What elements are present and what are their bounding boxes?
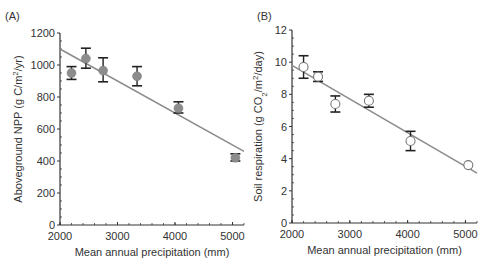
x-tick-label: 3000 (338, 228, 362, 240)
y-axis-title: Aboveground NPP (g C/m2/yr) (11, 55, 25, 202)
data-point (98, 58, 108, 82)
marker (464, 161, 473, 170)
data-point (67, 67, 77, 80)
y-tick-label: 2 (281, 185, 287, 197)
marker (299, 62, 308, 71)
data-point (132, 67, 142, 86)
x-tick-label: 5000 (453, 228, 477, 240)
chart-panel-b: (B)0246810122000300040005000Mean annual … (251, 10, 478, 256)
data-point (313, 72, 323, 82)
marker (364, 96, 373, 105)
marker (314, 72, 323, 81)
chart-panel-a: (A)0200400600800100012002000300040005000… (5, 10, 245, 258)
y-tick-label: 800 (37, 91, 55, 103)
y-tick-label: 8 (281, 88, 287, 100)
regression-line (60, 49, 244, 151)
marker (67, 69, 76, 78)
x-axis-title: Mean annual precipitation (mm) (75, 246, 230, 258)
x-tick-label: 2000 (48, 230, 72, 242)
marker (231, 153, 240, 162)
y-tick-label: 1000 (31, 59, 55, 71)
figure: (A)0200400600800100012002000300040005000… (0, 0, 495, 276)
data-point (406, 131, 416, 150)
x-tick-label: 2000 (280, 228, 304, 240)
y-tick-label: 400 (37, 155, 55, 167)
marker (99, 66, 108, 75)
marker (133, 72, 142, 81)
y-tick-label: 12 (275, 24, 287, 36)
marker (81, 54, 90, 63)
marker (406, 136, 415, 145)
x-axis-title: Mean annual precipitation (mm) (307, 244, 462, 256)
x-tick-label: 3000 (105, 230, 129, 242)
x-tick-label: 4000 (163, 230, 187, 242)
panel-label: (A) (5, 10, 20, 22)
marker (174, 104, 183, 113)
marker (331, 99, 340, 108)
y-tick-label: 4 (281, 153, 287, 165)
data-point (230, 153, 240, 162)
x-tick-label: 4000 (395, 228, 419, 240)
y-tick-label: 600 (37, 123, 55, 135)
data-point (330, 96, 340, 112)
data-point (364, 94, 374, 107)
panel-label: (B) (257, 10, 272, 22)
y-axis-title: Soil respiration (g CO2/m2/day) (251, 51, 269, 202)
y-tick-label: 6 (281, 121, 287, 133)
y-tick-label: 200 (37, 187, 55, 199)
data-point (464, 161, 473, 170)
y-tick-label: 1200 (31, 27, 55, 39)
y-tick-label: 10 (275, 56, 287, 68)
data-point (173, 102, 183, 113)
x-tick-label: 5000 (220, 230, 244, 242)
